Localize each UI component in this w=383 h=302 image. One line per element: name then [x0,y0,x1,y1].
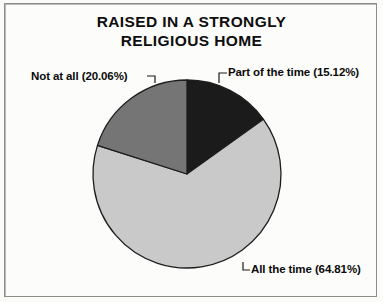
chart-area: Not at all (20.06%) Part of the time (15… [0,0,383,302]
callout-leader-lines [0,0,383,302]
slice-label-all-the-time: All the time (64.81%) [251,263,361,275]
leader-line-not-at-all [147,76,155,83]
slice-label-part-of-the-time: Part of the time (15.12%) [228,66,359,78]
slice-label-not-at-all: Not at all (20.06%) [31,70,128,82]
leader-line-part-of-the-time [219,73,227,83]
leader-line-all-the-time [243,262,250,270]
pie-chart-figure: RAISED IN A STRONGLY RELIGIOUS HOME Not … [0,0,383,302]
